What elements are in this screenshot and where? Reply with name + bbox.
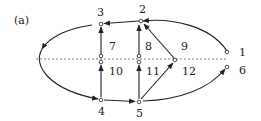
node-label-3: 3 <box>97 6 104 19</box>
edge-3-to-left-arc <box>42 25 92 49</box>
node-label-12: 12 <box>182 65 196 78</box>
node-label-6: 6 <box>239 64 246 77</box>
node-label-4: 4 <box>98 105 105 118</box>
node-3 <box>99 22 103 26</box>
node-label-11: 11 <box>146 65 160 78</box>
node-10 <box>99 60 103 64</box>
node-2 <box>139 19 143 23</box>
edge-4-to-5 <box>104 100 135 102</box>
edge-arc-to-4 <box>39 49 98 99</box>
node-label-5: 5 <box>136 107 143 120</box>
node-6 <box>225 65 229 69</box>
node-label-8: 8 <box>145 40 152 53</box>
node-label-1: 1 <box>239 46 246 59</box>
node-4 <box>99 98 103 102</box>
node-label-9: 9 <box>181 40 188 53</box>
node-7 <box>99 54 103 58</box>
node-label-7: 7 <box>109 40 116 53</box>
node-label-2: 2 <box>139 3 146 16</box>
graph-diagram: (a) 3 2 1 6 7 8 9 10 11 12 4 5 <box>0 0 261 121</box>
node-11 <box>137 60 141 64</box>
edge-2-to-3 <box>104 21 139 24</box>
node-5 <box>137 100 141 104</box>
node-8 <box>137 54 141 58</box>
node-1 <box>225 50 229 54</box>
node-9-12 <box>173 58 177 62</box>
node-label-10: 10 <box>109 65 123 78</box>
panel-label: (a) <box>14 14 29 27</box>
